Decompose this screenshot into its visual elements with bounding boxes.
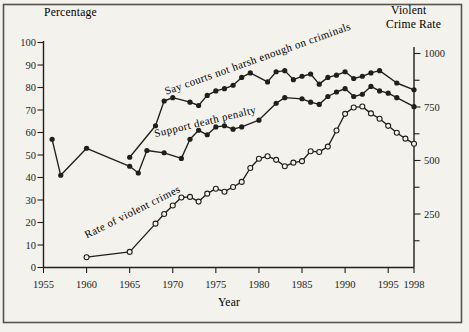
data-point-filled	[248, 70, 253, 75]
data-point-filled	[368, 70, 373, 75]
x-axis-tick-label: 1955	[33, 279, 54, 290]
data-point-filled	[265, 79, 270, 84]
data-point-filled	[230, 83, 235, 88]
left-axis-tick-label: 80	[26, 82, 37, 93]
data-point-open	[84, 255, 89, 260]
x-axis-title: Year	[218, 296, 240, 309]
data-point-filled	[342, 86, 347, 91]
data-point-filled	[360, 92, 365, 97]
data-point-filled	[334, 89, 339, 94]
right-axis-tick-label: 1000	[424, 48, 445, 59]
data-point-open	[231, 185, 236, 190]
data-point-filled	[230, 127, 235, 132]
data-point-filled	[291, 77, 296, 82]
data-point-filled	[325, 75, 330, 80]
data-point-filled	[222, 86, 227, 91]
x-axis-tick-label: 1980	[248, 279, 269, 290]
data-point-open	[170, 203, 175, 208]
left-axis-tick-label: 10	[26, 240, 37, 251]
data-point-open	[196, 199, 201, 204]
data-point-filled	[84, 146, 89, 151]
data-point-filled	[282, 95, 287, 100]
data-point-filled	[342, 69, 347, 74]
data-point-filled	[127, 155, 132, 160]
right-axis-tick-label: 250	[424, 209, 440, 220]
left-axis-tick-label: 100	[20, 37, 36, 48]
x-axis-tick-label: 1965	[119, 279, 140, 290]
data-point-filled	[317, 82, 322, 87]
data-point-open	[162, 212, 167, 217]
left-axis-tick-label: 50	[26, 150, 37, 161]
data-point-filled	[205, 132, 210, 137]
data-point-filled	[196, 103, 201, 108]
data-point-filled	[386, 91, 391, 96]
data-point-open	[153, 221, 158, 226]
data-point-filled	[274, 69, 279, 74]
data-point-open	[213, 186, 218, 191]
x-axis-tick-label: 1970	[162, 279, 183, 290]
data-point-filled	[50, 137, 55, 142]
right-axis-title-line2: Crime Rate	[386, 18, 441, 31]
data-point-open	[403, 136, 408, 141]
data-point-filled	[351, 76, 356, 81]
left-axis-title: Percentage	[44, 6, 97, 19]
data-point-filled	[411, 104, 416, 109]
x-axis-tick-label: 1985	[292, 279, 313, 290]
data-point-open	[377, 116, 382, 121]
data-point-open	[412, 141, 417, 146]
left-axis-tick-label: 90	[26, 60, 37, 71]
x-axis-tick-label: 1975	[205, 279, 226, 290]
left-axis-tick-label: 40	[26, 172, 37, 183]
data-point-filled	[239, 75, 244, 80]
left-axis-tick-label: 20	[26, 217, 37, 228]
left-axis-tick-label: 30	[26, 195, 37, 206]
data-point-open	[317, 149, 322, 154]
data-point-filled	[394, 95, 399, 100]
data-point-filled	[351, 94, 356, 99]
data-point-filled	[239, 124, 244, 129]
x-axis-tick-label: 1990	[335, 279, 356, 290]
data-point-filled	[144, 148, 149, 153]
data-point-filled	[334, 73, 339, 78]
data-point-filled	[299, 96, 304, 101]
data-point-open	[179, 195, 184, 200]
data-point-open	[248, 165, 253, 170]
data-point-open	[386, 123, 391, 128]
data-point-open	[291, 160, 296, 165]
data-point-filled	[377, 88, 382, 93]
data-point-filled	[325, 94, 330, 99]
data-point-open	[360, 104, 365, 109]
data-point-filled	[162, 150, 167, 155]
data-point-filled	[127, 164, 132, 169]
figure-page: 0102030405060708090100195519601965197019…	[0, 0, 469, 332]
data-point-open	[300, 159, 305, 164]
x-axis-tick-label: 1960	[76, 279, 97, 290]
right-axis-tick-label: 750	[424, 102, 440, 113]
data-point-open	[351, 105, 356, 110]
x-axis-tick-label: 1995	[378, 279, 399, 290]
data-point-filled	[187, 137, 192, 142]
data-point-filled	[136, 170, 141, 175]
data-point-open	[239, 179, 244, 184]
left-axis-tick-label: 70	[26, 105, 37, 116]
data-point-filled	[368, 84, 373, 89]
data-point-open	[325, 144, 330, 149]
left-axis-tick-label: 60	[26, 127, 37, 138]
right-axis-title-line1: Violent	[391, 4, 427, 17]
data-point-open	[265, 154, 270, 159]
data-point-open	[334, 128, 339, 133]
data-point-open	[127, 249, 132, 254]
data-point-open	[308, 149, 313, 154]
data-point-filled	[179, 156, 184, 161]
data-point-open	[368, 111, 373, 116]
x-axis-tick-label: 1998	[404, 279, 425, 290]
data-point-open	[187, 194, 192, 199]
data-point-open	[222, 189, 227, 194]
data-point-filled	[317, 102, 322, 107]
attitudes-crime-chart: 0102030405060708090100195519601965197019…	[0, 0, 469, 332]
right-axis-tick-label: 500	[424, 155, 440, 166]
data-point-open	[394, 130, 399, 135]
data-point-open	[205, 191, 210, 196]
data-point-filled	[377, 68, 382, 73]
data-point-filled	[299, 74, 304, 79]
